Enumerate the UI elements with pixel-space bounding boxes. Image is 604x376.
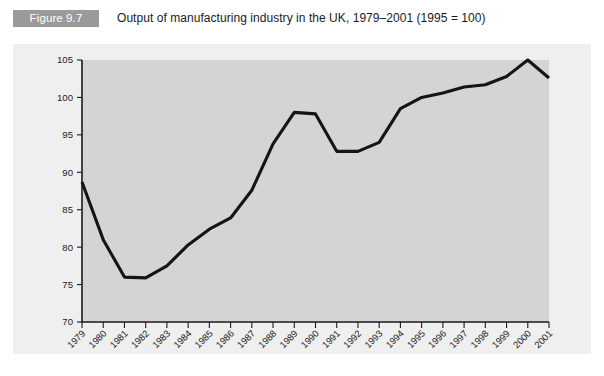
y-tick-label: 70 [62,316,73,327]
y-tick-label: 85 [62,204,73,215]
x-tick-label: 1983 [150,328,173,351]
figure-caption-text: Output of manufacturing industry in the … [117,11,486,25]
x-tick-label: 1984 [171,328,194,351]
x-tick-label: 1988 [256,328,279,351]
x-tick-label: 1992 [341,328,364,351]
figure-caption-row: Figure 9.7 Output of manufacturing indus… [0,0,604,36]
y-tick-label: 95 [62,129,73,140]
x-tick-label: 1981 [107,328,130,351]
line-chart: 707580859095100105 197919801981198219831… [13,44,591,354]
x-tick-label: 1986 [213,328,236,351]
x-tick-label: 1985 [192,328,215,351]
x-tick-label: 2000 [511,328,534,351]
x-tick-label: 2001 [532,328,555,351]
x-tick-label: 1990 [298,328,321,351]
x-tick-label: 1980 [86,328,109,351]
x-tick-label: 1997 [447,328,470,351]
chart-panel: 707580859095100105 197919801981198219831… [13,44,591,354]
y-tick-label: 100 [57,92,73,103]
x-tick-label: 1998 [468,328,491,351]
x-tick-label: 1987 [235,328,258,351]
y-tick-label: 90 [62,167,73,178]
figure-number-badge: Figure 9.7 [13,10,99,27]
x-tick-label: 1982 [129,328,152,351]
y-axis-tick-labels: 707580859095100105 [57,54,73,327]
x-axis-tick-labels: 1979198019811982198319841985198619871988… [65,328,555,351]
x-tick-label: 1999 [489,328,512,351]
x-tick-label: 1979 [65,328,88,351]
x-tick-label: 1993 [362,328,385,351]
x-tick-label: 1989 [277,328,300,351]
plot-area-background [82,60,549,322]
y-tick-label: 105 [57,54,73,65]
x-tick-label: 1996 [426,328,449,351]
y-tick-label: 80 [62,242,73,253]
x-tick-label: 1994 [383,328,406,351]
x-tick-label: 1991 [320,328,343,351]
y-tick-label: 75 [62,279,73,290]
x-axis-tick-marks [82,322,549,328]
x-tick-label: 1995 [405,328,428,351]
